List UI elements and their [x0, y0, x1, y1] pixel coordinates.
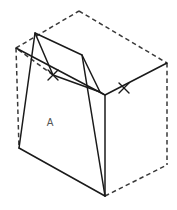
isometric-drawing-svg: A [0, 0, 177, 210]
isometric-figure-container: A [0, 0, 177, 210]
face-label-a: A [47, 117, 54, 128]
drawing-background [0, 0, 177, 210]
